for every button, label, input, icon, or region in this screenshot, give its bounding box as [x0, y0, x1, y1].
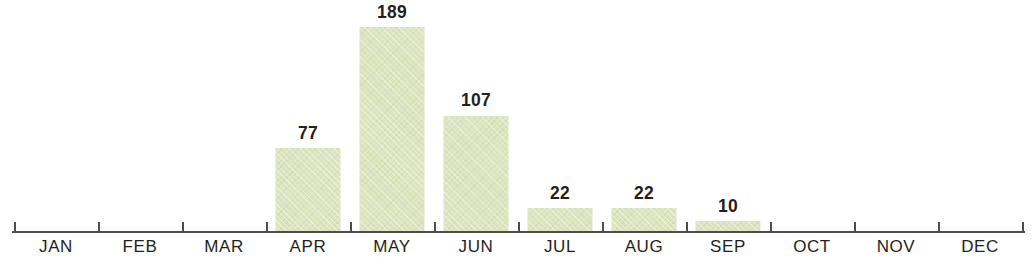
x-axis-tick [686, 222, 688, 231]
x-axis-tick [434, 222, 436, 231]
x-axis-label-aug: AUG [602, 238, 686, 257]
x-axis-label-dec: DEC [938, 238, 1022, 257]
x-axis-label-jun: JUN [434, 238, 518, 257]
bar-jul[interactable] [528, 208, 593, 232]
bar-value-label-jun: 107 [461, 92, 491, 110]
bar-slot: 10 [686, 0, 770, 232]
bar-slot [854, 0, 938, 232]
bar-may[interactable] [360, 27, 425, 232]
x-axis-tick [1022, 222, 1024, 231]
bar-chart: 77189107222210 JANFEBMARAPRMAYJUNJULAUGS… [0, 0, 1032, 274]
x-axis-label-mar: MAR [182, 238, 266, 257]
x-axis-label-oct: OCT [770, 238, 854, 257]
plot-area: 77189107222210 [14, 0, 1022, 232]
bar-value-label-sep: 10 [718, 198, 738, 216]
x-axis-label-feb: FEB [98, 238, 182, 257]
bar-apr[interactable] [276, 148, 341, 232]
x-axis-tick [602, 222, 604, 231]
x-axis-label-nov: NOV [854, 238, 938, 257]
x-axis-label-apr: APR [266, 238, 350, 257]
bar-slot [182, 0, 266, 232]
x-axis-tick [770, 222, 772, 231]
x-axis-tick [938, 222, 940, 231]
x-axis-label-jul: JUL [518, 238, 602, 257]
x-axis-tick [14, 222, 16, 231]
bar-slot: 22 [518, 0, 602, 232]
x-axis-label-may: MAY [350, 238, 434, 257]
bar-slot [14, 0, 98, 232]
bar-aug[interactable] [612, 208, 677, 232]
x-axis-tick [518, 222, 520, 231]
bar-slot: 22 [602, 0, 686, 232]
x-axis-line [12, 231, 1025, 233]
x-axis-tick [854, 222, 856, 231]
bar-slot: 77 [266, 0, 350, 232]
x-axis-tick [98, 222, 100, 231]
x-axis-tick [266, 222, 268, 231]
x-axis-label-sep: SEP [686, 238, 770, 257]
bar-value-label-jul: 22 [550, 185, 570, 203]
x-axis-tick [350, 222, 352, 231]
x-axis-tick [182, 222, 184, 231]
x-axis-label-jan: JAN [14, 238, 98, 257]
bar-value-label-aug: 22 [634, 185, 654, 203]
bar-slot: 189 [350, 0, 434, 232]
bar-slot: 107 [434, 0, 518, 232]
bar-slot [938, 0, 1022, 232]
bar-value-label-apr: 77 [298, 125, 318, 143]
bar-slot [770, 0, 854, 232]
bar-slot [98, 0, 182, 232]
bar-jun[interactable] [444, 116, 509, 232]
bar-value-label-may: 189 [377, 4, 407, 22]
